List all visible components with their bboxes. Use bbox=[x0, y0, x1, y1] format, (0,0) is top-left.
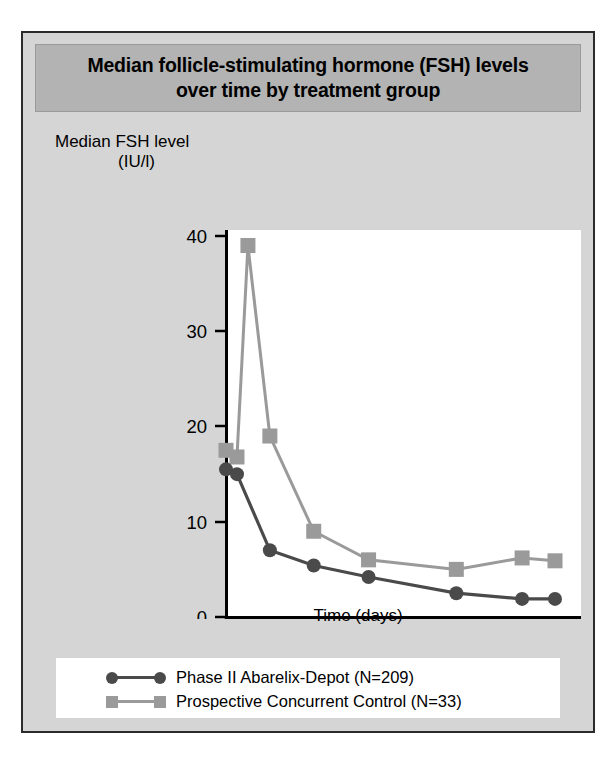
x-axis-label-text: Time (days) bbox=[313, 606, 402, 625]
data-point-square bbox=[240, 238, 255, 253]
data-point-square bbox=[306, 524, 321, 539]
chart-title-line-1: Median follicle-stimulating hormone (FSH… bbox=[87, 54, 528, 76]
data-point-square bbox=[449, 562, 464, 577]
chart-legend: Phase II Abarelix-Depot (N=209) Prospect… bbox=[56, 658, 560, 718]
data-point-circle bbox=[362, 570, 376, 584]
y-axis-ticks bbox=[215, 236, 226, 617]
y-tick-label-10: 10 bbox=[186, 512, 207, 533]
data-point-circle bbox=[230, 467, 244, 481]
line-chart: 40 30 20 10 0 0 5 10 15 20 bbox=[35, 119, 581, 619]
data-point-circle bbox=[449, 586, 463, 600]
plot-panel: Median FSH level (IU/l) 40 30 20 10 0 bbox=[35, 119, 581, 635]
legend-key-circle bbox=[106, 668, 168, 686]
chart-title-line-2: over time by treatment group bbox=[176, 79, 440, 101]
figure-container: Median follicle-stimulating hormone (FSH… bbox=[21, 31, 595, 733]
legend-marker-square-left bbox=[106, 696, 118, 708]
y-tick-label-30: 30 bbox=[186, 321, 207, 342]
legend-marker-circle-right bbox=[154, 672, 166, 684]
legend-marker-circle-left bbox=[106, 672, 118, 684]
data-point-circle bbox=[263, 543, 277, 557]
y-axis-tick-labels: 40 30 20 10 0 bbox=[186, 226, 207, 619]
data-point-circle bbox=[307, 559, 321, 573]
data-point-square bbox=[229, 449, 244, 464]
legend-item-abarelix: Phase II Abarelix-Depot (N=209) bbox=[106, 666, 560, 688]
y-tick-label-40: 40 bbox=[186, 226, 207, 247]
data-point-circle bbox=[515, 592, 529, 606]
chart-title-band: Median follicle-stimulating hormone (FSH… bbox=[35, 44, 581, 112]
data-point-square bbox=[262, 429, 277, 444]
x-axis-label: Time (days) bbox=[35, 606, 581, 626]
data-point-square bbox=[515, 550, 530, 565]
legend-item-control: Prospective Concurrent Control (N=33) bbox=[106, 690, 560, 712]
data-point-square bbox=[548, 553, 563, 568]
page-title: Median follicle-stimulating hormone (FSH… bbox=[77, 53, 538, 103]
y-tick-label-20: 20 bbox=[186, 416, 207, 437]
data-point-circle bbox=[548, 592, 562, 606]
data-point-square bbox=[361, 552, 376, 567]
legend-label-control: Prospective Concurrent Control (N=33) bbox=[176, 692, 462, 711]
legend-key-square bbox=[106, 692, 168, 710]
legend-label-abarelix: Phase II Abarelix-Depot (N=209) bbox=[176, 668, 414, 687]
legend-marker-square-right bbox=[154, 696, 166, 708]
